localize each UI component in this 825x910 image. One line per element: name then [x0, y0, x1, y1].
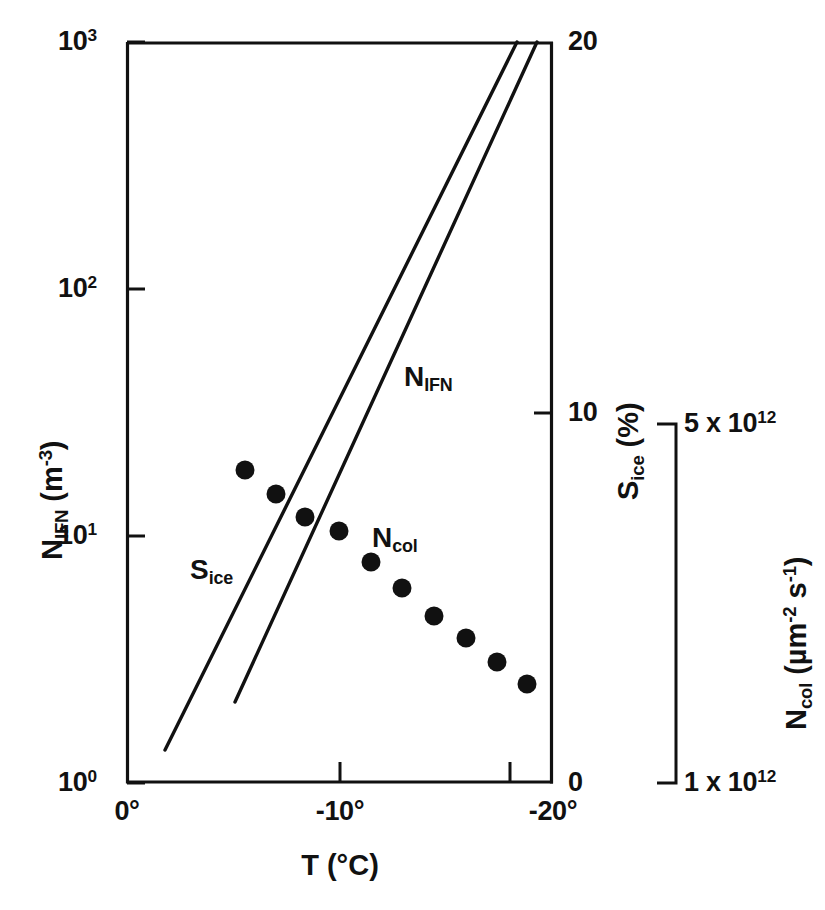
data-point [362, 553, 381, 572]
data-point [425, 607, 444, 626]
right-outer-axis-bracket [657, 424, 676, 783]
right-inner-axis-title: Sice (%) [614, 402, 643, 500]
bottom-axis-tick-label-minus20: -20° [529, 798, 578, 825]
bottom-axis-tick-label-0: 0° [114, 798, 139, 825]
bottom-axis-tick-label-minus10: -10° [316, 798, 365, 825]
data-point [518, 675, 537, 694]
plot-frame [127, 42, 553, 784]
sice-curve-label: Sice [190, 556, 233, 584]
right-outer-axis-title: Ncol (µm-2 s-1) [782, 557, 811, 730]
data-point [393, 579, 412, 598]
right-inner-axis-tick-label-10: 10 [568, 399, 597, 426]
data-point [236, 461, 255, 480]
nifn-curve-label: NIFN [404, 363, 452, 391]
right-outer-axis-tick-label-5e12: 5 x 1012 [684, 410, 776, 437]
right-inner-axis-tick-label-0: 0 [568, 769, 583, 796]
bottom-axis-ticks [340, 762, 510, 782]
left-axis-tick-label-1e0: 100 [58, 769, 97, 796]
data-point [267, 485, 286, 504]
right-outer-axis-tick-label-1e12: 1 x 1012 [684, 769, 776, 796]
right-inner-axis-tick-label-20: 20 [568, 28, 597, 55]
ncol-series-label: Ncol [372, 524, 418, 552]
nifn-curve [235, 42, 537, 702]
left-axis-title: NIFN (m-3) [38, 441, 67, 561]
bottom-axis-title: T (°C) [301, 851, 379, 880]
right-outer-axis [657, 424, 676, 783]
data-point [296, 508, 315, 527]
data-point [488, 653, 507, 672]
data-point [457, 629, 476, 648]
left-axis-tick-label-1e3: 103 [58, 28, 97, 55]
data-point [330, 522, 349, 541]
left-axis-tick-label-1e2: 102 [58, 275, 97, 302]
ncol-scatter-series [236, 461, 537, 694]
left-axis-ticks [127, 42, 145, 783]
curves [165, 42, 537, 750]
